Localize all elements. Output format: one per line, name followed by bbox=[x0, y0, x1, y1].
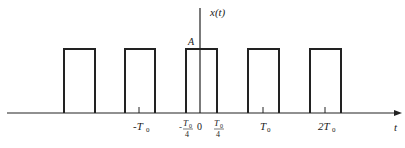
pulse-4 bbox=[248, 49, 279, 113]
pulse-5 bbox=[310, 49, 341, 113]
pulse-train-diagram: x(t) A t -T 0 - T 0 4 0 T 0 4 T 0 2T 0 bbox=[0, 0, 405, 148]
pulses bbox=[64, 49, 341, 113]
y-axis-label: x(t) bbox=[209, 6, 226, 19]
neg-T0-over-4-sub: 0 bbox=[189, 123, 192, 129]
pulse-2 bbox=[125, 49, 155, 113]
T0-over-4-sub: 0 bbox=[220, 123, 223, 129]
t-axis-label: t bbox=[394, 121, 398, 133]
tick-label-T0-sub: 0 bbox=[267, 126, 271, 134]
T0-over-4-den: 4 bbox=[216, 130, 220, 139]
neg-sign: - bbox=[179, 122, 182, 132]
tick-label-neg-T0-sub: 0 bbox=[146, 126, 150, 134]
pulse-1 bbox=[64, 49, 95, 113]
t-axis-arrow-icon bbox=[394, 110, 402, 116]
ticks bbox=[139, 107, 325, 113]
tick-label-zero: 0 bbox=[197, 121, 202, 132]
tick-label-2T0-sub: 0 bbox=[332, 126, 336, 134]
neg-T0-over-4-den: 4 bbox=[185, 130, 189, 139]
tick-label-neg-T0: -T bbox=[133, 120, 144, 132]
tick-label-2T0: 2T bbox=[318, 120, 331, 132]
amplitude-label: A bbox=[187, 36, 195, 47]
pulse-3 bbox=[186, 49, 217, 113]
tick-label-T0: T bbox=[260, 120, 267, 132]
